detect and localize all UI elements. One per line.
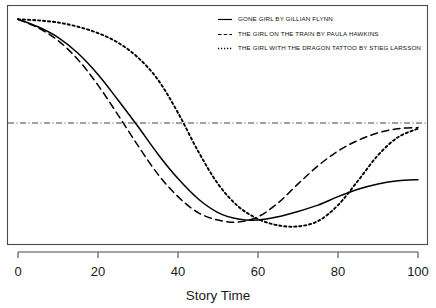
sentiment-arc-chart: 0 20 40 60 80 100 Story Time GONE GIRL B…: [0, 0, 436, 308]
legend-label-gone-girl: GONE GIRL BY GILLIAN FLYNN: [238, 15, 333, 22]
x-tick-label-20: 20: [91, 264, 105, 279]
x-tick-label-100: 100: [407, 264, 429, 279]
legend-label-dragon-tattoo: THE GIRL WITH THE DRAGON TATTOO BY STIEG…: [238, 44, 421, 51]
x-tick-label-60: 60: [251, 264, 265, 279]
x-axis-title: Story Time: [186, 288, 251, 303]
legend-label-girl-on-the-train: THE GIRL ON THE TRAIN BY PAULA HAWKINS: [238, 30, 379, 37]
x-tick-label-80: 80: [331, 264, 345, 279]
x-tick-label-0: 0: [14, 264, 21, 279]
x-tick-label-40: 40: [171, 264, 185, 279]
